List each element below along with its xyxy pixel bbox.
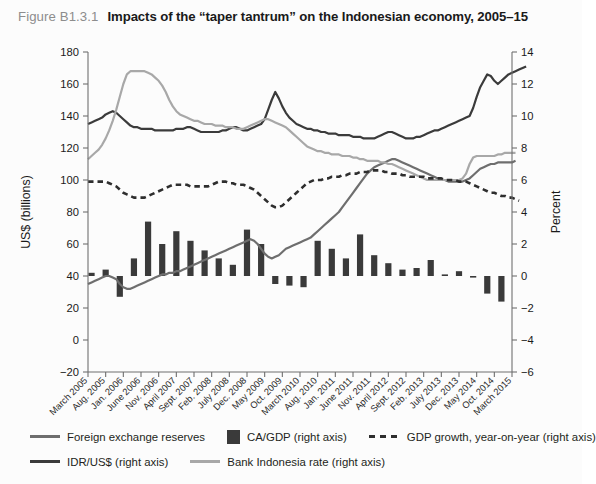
bar-ca-gdp bbox=[202, 250, 208, 276]
legend-fx-reserves-swatch bbox=[30, 435, 60, 438]
chart-svg: −20020406080100120140160180 −6−4−2024681… bbox=[0, 36, 582, 426]
legend-gdp-growth-label: GDP growth, year-on-year (right axis) bbox=[407, 431, 596, 443]
bar-ca-gdp bbox=[88, 273, 94, 276]
bar-ca-gdp bbox=[272, 276, 278, 284]
y-axis-left-tick-label: 80 bbox=[67, 206, 79, 218]
y-axis-right-tick-label: −6 bbox=[521, 366, 534, 378]
bar-ca-gdp bbox=[399, 270, 405, 276]
y-axis-right-tick-label: 0 bbox=[521, 270, 527, 282]
bar-ca-gdp bbox=[385, 263, 391, 276]
bar-ca-gdp bbox=[230, 265, 236, 276]
legend-ca-gdp[interactable]: CA/GDP (right axis) bbox=[227, 430, 347, 444]
y-axis-left-tick-label: 40 bbox=[67, 270, 79, 282]
y-axis-left-tick-label: 20 bbox=[67, 302, 79, 314]
legend-bi-rate-label: Bank Indonesia rate (right axis) bbox=[227, 456, 385, 468]
y-axis-right-tick-label: 4 bbox=[521, 206, 527, 218]
bar-ca-gdp bbox=[244, 230, 250, 276]
figure-number: Figure B1.3.1 bbox=[18, 9, 98, 24]
legend-ca-gdp-swatch bbox=[227, 430, 240, 444]
figure-title: Impacts of the “taper tantrum” on the In… bbox=[107, 9, 527, 24]
bar-ca-gdp bbox=[300, 276, 306, 287]
legend-bi-rate[interactable]: Bank Indonesia rate (right axis) bbox=[190, 456, 385, 468]
bar-ca-gdp bbox=[371, 255, 377, 276]
y-axis-right-tick-label: −4 bbox=[521, 334, 534, 346]
bar-ca-gdp bbox=[470, 276, 476, 278]
bar-ca-gdp bbox=[329, 249, 335, 276]
bar-ca-gdp bbox=[456, 271, 462, 276]
bar-ca-gdp bbox=[484, 276, 490, 294]
y-axis-right-tick-label: 12 bbox=[521, 78, 533, 90]
legend-ca-gdp-label: CA/GDP (right axis) bbox=[247, 431, 347, 443]
legend-gdp-growth[interactable]: GDP growth, year-on-year (right axis) bbox=[369, 431, 596, 443]
bar-ca-gdp bbox=[442, 274, 448, 276]
y-axis-right-tick-label: 8 bbox=[521, 142, 527, 154]
bar-ca-gdp bbox=[428, 260, 434, 276]
bar-ca-gdp bbox=[173, 231, 179, 276]
bar-ca-gdp bbox=[315, 241, 321, 276]
bar-ca-gdp bbox=[498, 276, 504, 302]
legend-row-2: IDR/US$ (right axis)Bank Indonesia rate … bbox=[0, 449, 582, 474]
y-axis-left-title: US$ (billions) bbox=[19, 175, 33, 249]
y-axis-left-tick-label: 160 bbox=[60, 78, 79, 90]
figure-title-bar: Figure B1.3.1 Impacts of the “taper tant… bbox=[18, 9, 574, 31]
chart-legend: Foreign exchange reservesCA/GDP (right a… bbox=[0, 424, 582, 482]
legend-bi-rate-swatch bbox=[190, 460, 220, 463]
bar-ca-gdp bbox=[131, 258, 137, 276]
y-axis-right-tick-label: −2 bbox=[521, 302, 534, 314]
y-axis-right-ticks: −6−4−202468101214 bbox=[512, 46, 534, 378]
series-line bbox=[88, 170, 519, 207]
x-axis-ticks: March 2005Aug. 2005Jan. 2006June 2006Nov… bbox=[48, 372, 514, 417]
legend-idr-usd-label: IDR/US$ (right axis) bbox=[67, 456, 168, 468]
y-axis-right-tick-label: 14 bbox=[521, 46, 533, 58]
y-axis-right-title: Percent bbox=[549, 190, 563, 233]
legend-fx-reserves-label: Foreign exchange reserves bbox=[67, 431, 205, 443]
y-axis-right-tick-label: 6 bbox=[521, 174, 527, 186]
bar-ca-gdp bbox=[187, 241, 193, 276]
bar-ca-gdp bbox=[414, 268, 420, 276]
bar-ca-gdp bbox=[343, 258, 349, 276]
chart-plot-area: −20020406080100120140160180 −6−4−2024681… bbox=[0, 36, 582, 426]
legend-idr-usd-swatch bbox=[30, 460, 60, 463]
y-axis-left-tick-label: 140 bbox=[60, 110, 79, 122]
bar-ca-gdp bbox=[357, 234, 363, 276]
y-axis-left-tick-label: 0 bbox=[73, 334, 79, 346]
chart-series-group bbox=[88, 66, 526, 301]
legend-fx-reserves[interactable]: Foreign exchange reserves bbox=[30, 431, 205, 443]
y-axis-left-ticks: −20020406080100120140160180 bbox=[60, 46, 88, 378]
y-axis-right-tick-label: 10 bbox=[521, 110, 533, 122]
y-axis-left-tick-label: 60 bbox=[67, 238, 79, 250]
bar-ca-gdp bbox=[216, 258, 222, 276]
legend-idr-usd[interactable]: IDR/US$ (right axis) bbox=[30, 456, 168, 468]
legend-gdp-growth-swatch bbox=[369, 435, 400, 438]
series-line bbox=[88, 159, 516, 289]
y-axis-left-tick-label: 100 bbox=[60, 174, 79, 186]
bar-ca-gdp bbox=[159, 244, 165, 276]
y-axis-right-tick-label: 2 bbox=[521, 238, 527, 250]
y-axis-left-tick-label: −20 bbox=[60, 366, 79, 378]
y-axis-left-tick-label: 120 bbox=[60, 142, 79, 154]
bar-ca-gdp bbox=[286, 276, 292, 286]
bar-ca-gdp bbox=[145, 222, 151, 276]
y-axis-left-tick-label: 180 bbox=[60, 46, 79, 58]
legend-row-1: Foreign exchange reservesCA/GDP (right a… bbox=[0, 424, 582, 449]
